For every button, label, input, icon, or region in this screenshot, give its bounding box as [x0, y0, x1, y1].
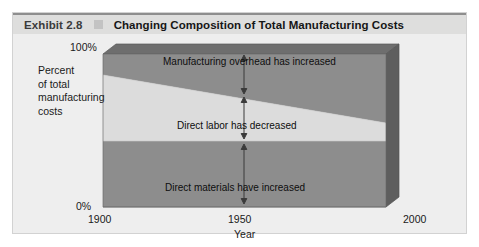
x-tick-label-1900: 1900 — [88, 213, 111, 225]
annotation-manufacturing-overhead: Manufacturing overhead has increased — [163, 56, 336, 67]
y-axis-label-line-1: Percent — [38, 64, 105, 78]
y-axis-label-line-4: costs — [38, 105, 105, 119]
chart-plot-area: Percent of total manufacturing costs 100… — [13, 34, 466, 233]
chart-top-face — [103, 44, 399, 54]
square-marker-icon — [94, 20, 103, 29]
chart-right-depth-face — [386, 44, 399, 207]
y-tick-label-100: 100% — [70, 41, 97, 53]
x-axis-label: Year — [234, 228, 255, 240]
y-axis-label-line-2: of total — [38, 78, 105, 92]
x-tick-label-2000: 2000 — [403, 213, 426, 225]
x-tick-label-1950: 1950 — [228, 213, 251, 225]
exhibit-number: Exhibit 2.8 — [24, 19, 83, 31]
y-axis-label: Percent of total manufacturing costs — [38, 64, 105, 118]
annotation-direct-labor: Direct labor has decreased — [177, 120, 297, 131]
annotation-direct-materials: Direct materials have increased — [165, 182, 305, 193]
exhibit-title-bar: Exhibit 2.8 Changing Composition of Tota… — [13, 13, 466, 34]
y-tick-label-0: 0% — [76, 200, 91, 212]
y-axis-label-line-3: manufacturing — [38, 91, 105, 105]
exhibit-figure: Exhibit 2.8 Changing Composition of Tota… — [12, 12, 467, 234]
page-title: Changing Composition of Total Manufactur… — [114, 19, 404, 31]
